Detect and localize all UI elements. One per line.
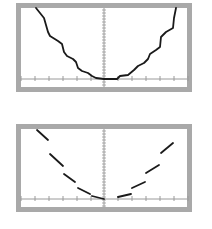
top-graph-panel xyxy=(16,3,192,92)
bottom-graph-panel xyxy=(16,124,192,212)
diagram-canvas xyxy=(0,0,212,229)
